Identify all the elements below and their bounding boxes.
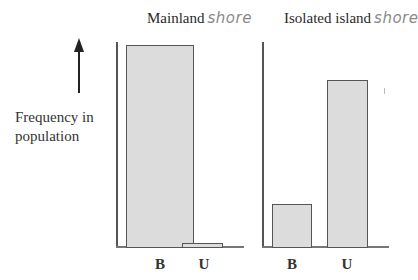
bar-mainland-B bbox=[126, 45, 194, 248]
bar-island-B bbox=[272, 204, 312, 248]
category-label-mainland-B: B bbox=[140, 256, 180, 273]
handwritten-annotation: shore bbox=[374, 9, 418, 27]
category-label-island-U: U bbox=[327, 256, 367, 273]
category-label-island-B: B bbox=[272, 256, 312, 273]
y-axis-label-line2: population bbox=[15, 127, 94, 146]
y-axis-arrow bbox=[74, 38, 84, 94]
handwritten-annotation: shore bbox=[208, 9, 252, 27]
arrow-shaft bbox=[78, 50, 80, 93]
panel-title-text: Isolated island bbox=[284, 10, 371, 26]
y-axis-island bbox=[262, 42, 264, 248]
bar-mainland-U bbox=[182, 243, 223, 248]
category-label-mainland-U: U bbox=[184, 256, 224, 273]
panel-title-text: Mainland bbox=[147, 10, 205, 26]
panel-title-mainland: Mainlandshore bbox=[147, 9, 252, 27]
y-axis-mainland bbox=[116, 42, 118, 248]
bar-island-U bbox=[327, 80, 368, 248]
panel-title-island: Isolated islandshore bbox=[284, 9, 418, 27]
scan-mark bbox=[384, 88, 385, 94]
y-axis-label-line1: Frequency in bbox=[15, 108, 94, 127]
y-axis-label: Frequency in population bbox=[15, 108, 94, 146]
